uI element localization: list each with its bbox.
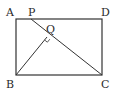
label-b: B (6, 78, 14, 91)
segment-pc (31, 19, 102, 75)
rectangle-abcd (16, 19, 102, 75)
segment-bq (16, 37, 47, 75)
label-p: P (28, 6, 36, 19)
label-d: D (101, 6, 110, 19)
geometry-diagram: A P D Q B C (0, 0, 115, 92)
label-c: C (101, 78, 109, 91)
label-a: A (5, 6, 15, 19)
label-q: Q (46, 23, 55, 36)
